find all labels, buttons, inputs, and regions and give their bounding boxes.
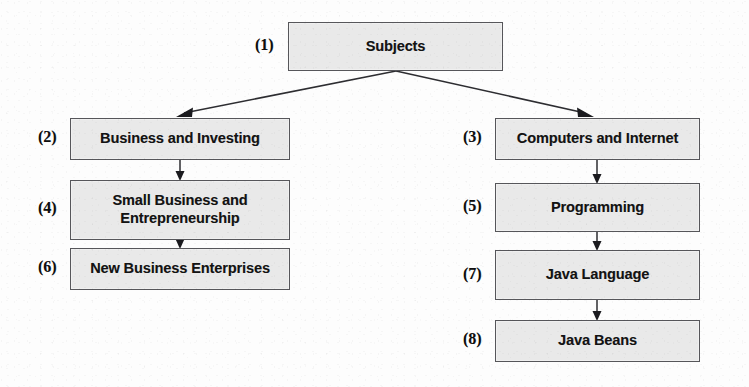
node-business-and-investing-label: Business and Investing	[95, 130, 265, 148]
node-tag-7: (7)	[463, 265, 482, 283]
node-subjects-label: Subjects	[361, 38, 431, 56]
node-tag-1: (1)	[255, 36, 274, 54]
node-java-language[interactable]: Java Language	[495, 250, 700, 300]
edge-java-language-to-java-beans	[593, 300, 602, 321]
node-programming[interactable]: Programming	[495, 183, 700, 232]
node-tag-2: (2)	[38, 128, 57, 146]
node-subjects[interactable]: Subjects	[288, 22, 503, 71]
edge-subjects-to-computers	[396, 71, 594, 117]
node-small-business-and-entrepreneurship[interactable]: Small Business and Entrepreneurship	[70, 180, 290, 240]
node-tag-8: (8)	[463, 330, 482, 348]
node-new-business-enterprises[interactable]: New Business Enterprises	[70, 248, 290, 290]
node-programming-label: Programming	[546, 199, 649, 217]
node-tag-5: (5)	[463, 197, 482, 215]
diagram-canvas: Subjects (1) Business and Investing (2) …	[0, 0, 749, 387]
node-new-business-enterprises-label: New Business Enterprises	[85, 260, 275, 278]
edge-subjects-to-business	[176, 71, 396, 117]
node-computers-and-internet[interactable]: Computers and Internet	[495, 118, 700, 160]
node-tag-6: (6)	[38, 258, 57, 276]
node-java-language-label: Java Language	[541, 266, 654, 284]
edge-computers-to-programming	[593, 160, 602, 184]
node-tag-3: (3)	[463, 128, 482, 146]
node-computers-and-internet-label: Computers and Internet	[512, 130, 683, 148]
edge-business-to-small-business	[176, 160, 185, 181]
node-business-and-investing[interactable]: Business and Investing	[70, 118, 290, 160]
node-tag-4: (4)	[38, 199, 57, 217]
node-java-beans[interactable]: Java Beans	[495, 320, 700, 362]
node-java-beans-label: Java Beans	[553, 332, 642, 350]
edge-programming-to-java-language	[593, 232, 602, 251]
node-small-business-and-entrepreneurship-label: Small Business and Entrepreneurship	[107, 192, 252, 227]
